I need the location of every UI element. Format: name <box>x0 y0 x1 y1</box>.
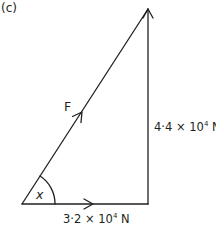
angle-label: x <box>36 189 43 202</box>
horizontal-mantissa: 3·2 × 10 <box>63 212 113 226</box>
vertical-vector-label: 4·4 × 104 N <box>154 122 216 134</box>
resultant-vector-label: F <box>64 101 71 114</box>
vertical-mantissa: 4·4 × 10 <box>154 120 204 134</box>
part-label: (c) <box>1 2 17 14</box>
horizontal-unit: N <box>117 212 129 226</box>
horizontal-vector-label: 3·2 × 104 N <box>63 214 130 226</box>
vertical-unit: N <box>208 120 216 134</box>
vector-triangle-diagram <box>0 0 216 227</box>
resultant-vector-line <box>22 9 148 204</box>
